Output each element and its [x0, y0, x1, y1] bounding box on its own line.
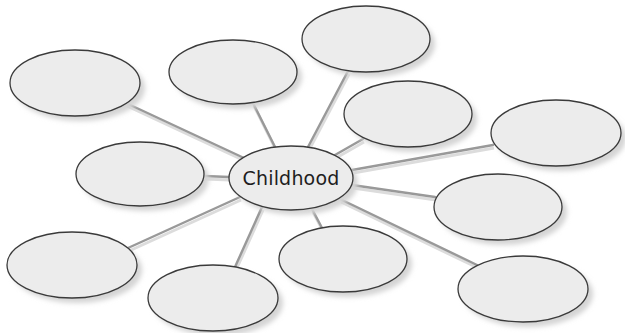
branch-node[interactable] — [10, 50, 140, 116]
branch-node[interactable] — [7, 232, 137, 298]
childhood-mind-map: Childhood — [0, 0, 625, 333]
branch-node[interactable] — [169, 40, 297, 104]
branch-node-ellipse-node-9[interactable] — [148, 265, 278, 331]
connector-shadow — [336, 142, 364, 158]
branch-node-ellipse-node-10[interactable] — [7, 232, 137, 298]
branch-node[interactable] — [458, 256, 588, 322]
branch-node-ellipse-node-11[interactable] — [76, 142, 204, 206]
branch-node-ellipse-node-4[interactable] — [344, 81, 472, 147]
connector-shadow — [353, 148, 494, 173]
connector-node-2 — [253, 103, 275, 147]
branch-node[interactable] — [302, 6, 430, 72]
connector-shadow — [309, 74, 349, 150]
branch-node-ellipse-node-3[interactable] — [302, 6, 430, 72]
branch-node[interactable] — [279, 226, 407, 292]
branch-node-ellipse-node-8[interactable] — [279, 226, 407, 292]
branch-node[interactable] — [491, 100, 621, 166]
branch-node[interactable] — [76, 142, 204, 206]
branch-node-ellipse-node-2[interactable] — [169, 40, 297, 104]
branch-node-ellipse-node-6[interactable] — [434, 174, 562, 240]
branch-node-ellipse-node-5[interactable] — [491, 100, 621, 166]
branch-node-ellipse-node-1[interactable] — [10, 50, 140, 116]
connector-node-3 — [308, 71, 348, 147]
connector-shadow — [236, 210, 263, 270]
center-node-label: Childhood — [242, 167, 339, 189]
branch-node[interactable] — [148, 265, 278, 331]
branch-node-ellipse-node-7[interactable] — [458, 256, 588, 322]
connector-node-9 — [235, 207, 262, 267]
branch-node[interactable] — [434, 174, 562, 240]
branch-node[interactable] — [344, 81, 472, 147]
connector-node-4 — [335, 139, 363, 155]
connector-shadow — [353, 188, 436, 200]
